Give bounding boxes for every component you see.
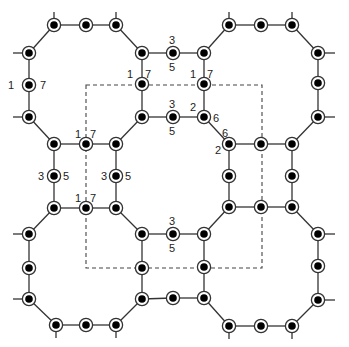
node-dot-icon <box>257 203 265 211</box>
node-dot-icon <box>225 172 233 180</box>
node-label: 1 <box>190 68 196 80</box>
node-dot-icon <box>112 321 120 329</box>
node-marker <box>254 200 267 213</box>
node-marker <box>47 18 60 31</box>
node-marker <box>109 201 122 214</box>
node-label: 7 <box>90 128 96 140</box>
node-label: 5 <box>125 170 131 182</box>
node-marker <box>311 259 324 272</box>
node-marker <box>166 110 179 123</box>
node-marker <box>166 46 179 59</box>
node-dot-icon <box>225 140 233 148</box>
node-marker <box>49 318 62 331</box>
node-dot-icon <box>50 140 58 148</box>
node-dot-icon <box>112 140 120 148</box>
node-label: 1 <box>127 68 133 80</box>
node-marker <box>109 18 122 31</box>
node-dot-icon <box>200 230 208 238</box>
node-marker <box>285 319 298 332</box>
node-label: 7 <box>207 68 213 80</box>
node-label: 6 <box>222 127 228 139</box>
node-dot-icon <box>138 113 146 121</box>
node-marker <box>254 319 267 332</box>
node-dot-icon <box>138 80 146 88</box>
node-marker <box>166 227 179 240</box>
node-marker <box>22 110 35 123</box>
node-marker <box>197 110 210 123</box>
diagram-canvas: 171735173526621735351735 <box>0 0 349 347</box>
node-dot-icon <box>112 204 120 212</box>
node-dot-icon <box>288 21 296 29</box>
node-dot-icon <box>200 80 208 88</box>
node-marker <box>222 169 235 182</box>
node-dot-icon <box>50 21 58 29</box>
node-marker <box>285 200 298 213</box>
node-dot-icon <box>25 230 33 238</box>
node-dot-icon <box>288 322 296 330</box>
node-marker <box>135 292 148 305</box>
node-dot-icon <box>169 113 177 121</box>
node-marker <box>109 169 122 182</box>
node-label: 7 <box>40 79 46 91</box>
node-dot-icon <box>138 264 146 272</box>
node-marker <box>254 137 267 150</box>
node-dot-icon <box>82 140 90 148</box>
node-label: 5 <box>169 125 175 137</box>
node-dot-icon <box>314 79 322 87</box>
node-marker <box>197 291 210 304</box>
node-label: 2 <box>215 144 221 156</box>
node-dot-icon <box>288 172 296 180</box>
node-dot-icon <box>314 296 322 304</box>
node-dot-icon <box>138 230 146 238</box>
node-dot-icon <box>200 263 208 271</box>
node-marker <box>22 46 35 59</box>
node-marker <box>47 137 60 150</box>
node-marker <box>109 137 122 150</box>
node-marker <box>285 137 298 150</box>
node-marker <box>285 169 298 182</box>
node-marker <box>197 260 210 273</box>
node-dot-icon <box>169 49 177 57</box>
node-dot-icon <box>225 203 233 211</box>
node-marker <box>79 318 92 331</box>
node-dot-icon <box>25 295 33 303</box>
node-dot-icon <box>225 322 233 330</box>
node-dot-icon <box>138 49 146 57</box>
node-marker <box>197 227 210 240</box>
node-marker <box>311 76 324 89</box>
node-dot-icon <box>257 140 265 148</box>
node-label: 6 <box>213 112 219 124</box>
node-label: 1 <box>75 192 81 204</box>
tiling-diagram: 171735173526621735351735 <box>0 0 349 347</box>
node-marker <box>254 18 267 31</box>
node-dot-icon <box>314 113 322 121</box>
node-dot-icon <box>112 21 120 29</box>
node-marker <box>311 227 324 240</box>
node-dot-icon <box>50 204 58 212</box>
node-dot-icon <box>288 203 296 211</box>
node-label: 3 <box>169 34 175 46</box>
node-dot-icon <box>25 264 33 272</box>
node-dot-icon <box>314 230 322 238</box>
node-dot-icon <box>257 322 265 330</box>
node-label: 5 <box>169 242 175 254</box>
node-marker <box>135 227 148 240</box>
node-dot-icon <box>169 294 177 302</box>
node-label: 2 <box>190 101 196 113</box>
node-marker <box>109 318 122 331</box>
node-dot-icon <box>82 204 90 212</box>
node-marker <box>222 319 235 332</box>
node-marker <box>311 293 324 306</box>
node-marker <box>47 201 60 214</box>
node-marker <box>22 292 35 305</box>
node-marker <box>311 46 324 59</box>
node-marker <box>135 110 148 123</box>
node-dot-icon <box>25 49 33 57</box>
node-dot-icon <box>225 21 233 29</box>
node-marker <box>222 200 235 213</box>
node-label: 1 <box>75 128 81 140</box>
node-label: 3 <box>169 98 175 110</box>
node-dot-icon <box>200 113 208 121</box>
node-dot-icon <box>50 172 58 180</box>
node-marker <box>166 291 179 304</box>
